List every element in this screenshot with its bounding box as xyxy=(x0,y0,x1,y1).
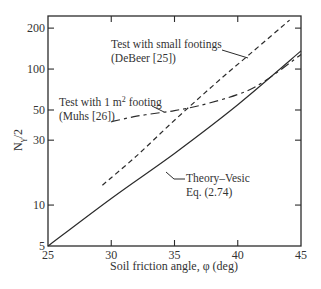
series-line-solid xyxy=(48,51,301,246)
y-axis-title: Nγ/2 xyxy=(11,129,27,151)
y-tick-label: 100 xyxy=(27,62,45,76)
x-tick-label: 45 xyxy=(295,248,307,262)
bearing-capacity-chart: 25303540455103050100200 Test with small … xyxy=(0,0,321,289)
plot-frame xyxy=(48,16,301,246)
y-tick-label: 50 xyxy=(33,103,45,117)
annotation-debeer-line1: Test with small footings xyxy=(111,38,222,51)
y-tick-label: 10 xyxy=(33,198,45,212)
y-tick-label: 200 xyxy=(27,21,45,35)
annotation-vesic-line2: Eq. (2.74) xyxy=(186,186,232,199)
annotation-debeer-line2: (DeBeer [25]) xyxy=(111,52,176,65)
x-axis-title: Soil friction angle, φ (deg) xyxy=(110,259,238,273)
series-line-dashdot xyxy=(111,55,301,122)
annotation-muhs-line1: Test with 1 m2 footing xyxy=(59,95,162,109)
y-tick-label: 5 xyxy=(39,239,45,253)
y-tick-label: 30 xyxy=(33,133,45,147)
annotation-muhs-line2: (Muhs [26]) xyxy=(59,110,115,123)
annotation-vesic-line1: Theory–Vesic xyxy=(186,172,250,185)
